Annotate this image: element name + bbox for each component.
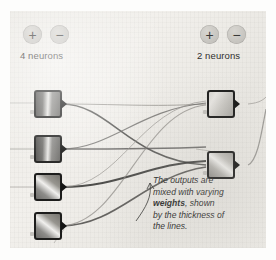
neuron-left-2[interactable] [34, 135, 62, 163]
annotation-line-2: mixed with varying [153, 187, 259, 199]
wire-out-r1 [248, 97, 266, 104]
wire-l2-r2 [62, 147, 206, 149]
wire-l2-r1 [62, 103, 206, 149]
annotation-text: The outputs are mixed with varying weigh… [153, 175, 259, 233]
neuron-body [34, 173, 62, 201]
wire-l1-r2 [62, 104, 206, 165]
annotation-line-3-rest: , shown [185, 198, 215, 208]
plus-icon: + [23, 25, 42, 44]
annotation-line-5: the lines. [153, 221, 259, 233]
neuron-output-port [61, 221, 67, 231]
minus-icon: − [227, 25, 246, 44]
wire-out-r2 [248, 109, 266, 165]
neuron-input-nub [30, 193, 34, 197]
neuron-output-port [234, 160, 240, 170]
right-group-label: 2 neurons [197, 50, 240, 61]
neuron-output-port [61, 144, 67, 154]
left-group-label: 4 neurons [20, 50, 63, 61]
right-add-neuron-button[interactable]: + [200, 25, 219, 44]
neuron-input-nub [30, 232, 34, 236]
neuron-output-port [61, 182, 67, 192]
neuron-input-nub [30, 155, 34, 159]
neuron-body [34, 90, 62, 118]
annotation-line-1: The outputs are [153, 175, 259, 187]
minus-icon: − [50, 25, 69, 44]
neuron-body [34, 212, 62, 240]
neuron-left-3[interactable] [34, 173, 62, 201]
network-canvas: + − 4 neurons + − 2 neurons [10, 11, 266, 248]
neuron-left-1[interactable] [34, 90, 62, 118]
right-remove-neuron-button[interactable]: − [227, 25, 246, 44]
wire-l1-r1 [62, 104, 206, 105]
neuron-body [34, 135, 62, 163]
left-add-neuron-button[interactable]: + [23, 25, 42, 44]
neuron-input-nub [203, 110, 207, 114]
figure-root: + − 4 neurons + − 2 neurons [0, 0, 276, 260]
neuron-left-4[interactable] [34, 212, 62, 240]
neuron-right-1[interactable] [207, 90, 235, 118]
neuron-body [207, 90, 235, 118]
neuron-output-port [234, 99, 240, 109]
neuron-output-port [61, 99, 67, 109]
annotation-weights-keyword: weights [153, 198, 185, 208]
left-remove-neuron-button[interactable]: − [50, 25, 69, 44]
annotation-line-4: by the thickness of [153, 210, 259, 222]
annotation-line-3: weights, shown [153, 198, 259, 210]
plus-icon: + [200, 25, 219, 44]
neuron-input-nub [30, 110, 34, 114]
